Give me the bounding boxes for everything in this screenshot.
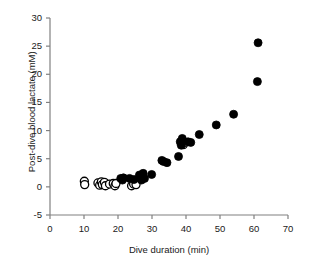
filled-circle-marker (230, 110, 238, 118)
x-tick-label: 30 (147, 224, 158, 234)
y-tick-label: 30 (14, 13, 42, 23)
axes (46, 18, 288, 219)
x-tick-label: 10 (79, 224, 90, 234)
filled-circle-marker (187, 138, 195, 146)
filled-circle-marker (175, 152, 183, 160)
filled-circle-marker (148, 170, 156, 178)
data-markers (80, 39, 262, 190)
x-tick-label: 0 (47, 224, 52, 234)
series-filled-circles (117, 39, 262, 184)
filled-circle-marker (253, 78, 261, 86)
x-tick-label: 70 (283, 224, 294, 234)
x-tick-label: 20 (113, 224, 124, 234)
filled-circle-marker (195, 131, 203, 139)
x-axis-title: Dive duration (min) (50, 245, 288, 255)
open-circle-marker (81, 181, 89, 189)
filled-circle-marker (212, 121, 220, 129)
filled-circle-marker (163, 159, 171, 167)
filled-circle-marker (141, 174, 149, 182)
scatter-plot-figure: -5051015202530 010203040506070 Dive dura… (0, 0, 318, 269)
y-tick-label: -5 (14, 210, 42, 220)
filled-circle-marker (254, 39, 262, 47)
x-tick-label: 50 (215, 224, 226, 234)
x-tick-label: 40 (181, 224, 192, 234)
y-axis-title: Post-dive blood lactate (mM) (27, 27, 37, 197)
x-tick-label: 60 (249, 224, 260, 234)
